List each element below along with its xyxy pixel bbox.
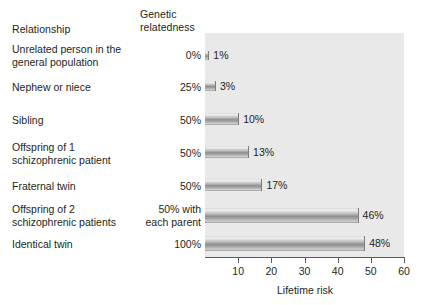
x-axis-tick	[338, 258, 339, 263]
bar-value-label: 46%	[363, 209, 384, 221]
genetic-relatedness-value: 50%	[112, 180, 201, 193]
bar-value-label: 10%	[243, 113, 264, 125]
x-axis-tick	[305, 258, 306, 263]
bar	[205, 179, 262, 191]
column-header-relationship: Relationship	[12, 23, 70, 36]
bar-value-label: 13%	[253, 146, 274, 158]
genetic-relatedness-value: 50% with each parent	[112, 203, 201, 228]
x-axis-tick-label: 60	[389, 265, 419, 277]
x-axis-title: Lifetime risk	[205, 284, 405, 296]
x-axis-tick	[271, 258, 272, 263]
bar	[205, 51, 209, 60]
x-axis-tick-label: 30	[290, 265, 320, 277]
x-axis-tick	[238, 258, 239, 263]
genetic-relatedness-value: 25%	[112, 81, 201, 94]
x-axis-tick-label: 10	[223, 265, 253, 277]
bar	[205, 236, 365, 251]
bar	[205, 208, 359, 223]
x-axis-tick-label: 50	[356, 265, 386, 277]
x-axis-tick	[404, 258, 405, 263]
genetic-relatedness-value: 100%	[112, 238, 201, 251]
genetic-relatedness-value: 50%	[112, 147, 201, 160]
bar-value-label: 1%	[213, 49, 228, 61]
bar	[205, 146, 249, 158]
bar	[205, 81, 216, 91]
bar-value-label: 48%	[369, 237, 390, 249]
x-axis-tick-label: 20	[256, 265, 286, 277]
bar-value-label: 17%	[266, 179, 287, 191]
column-header-genetic-relatedness: Genetic relatedness	[140, 8, 206, 33]
genetic-relatedness-value: 50%	[112, 114, 201, 127]
x-axis-tick	[371, 258, 372, 263]
bar-value-label: 3%	[220, 80, 235, 92]
x-axis-tick-label: 40	[323, 265, 353, 277]
bar	[205, 113, 239, 125]
genetic-relatedness-value: 0%	[112, 49, 201, 62]
